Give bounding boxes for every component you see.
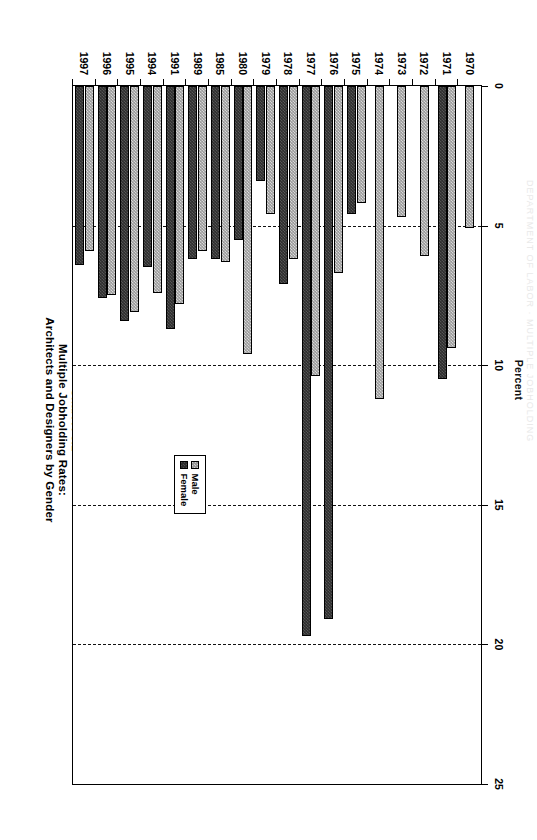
bar-male-1978 <box>289 86 298 259</box>
y-tick-1974 <box>367 79 368 86</box>
y-tick-1991 <box>163 79 164 86</box>
chart-row: 1975 <box>345 86 368 784</box>
chart-row: 1994 <box>141 86 164 784</box>
chart-title-line3: Architects and Designers by Gender <box>43 0 56 840</box>
bar-female-1991 <box>166 86 175 329</box>
bar-female-1989 <box>188 86 197 259</box>
chart-legend[interactable]: Male Female <box>174 455 206 515</box>
y-axis-label-1971: 1971 <box>441 52 453 75</box>
chart-row: 1972 <box>413 86 436 784</box>
x-tick-5 <box>481 226 488 227</box>
y-axis-label-1979: 1979 <box>260 52 272 75</box>
chart-row: 1997 <box>73 86 96 784</box>
x-axis-title: Percent <box>513 0 525 760</box>
bar-male-1997 <box>85 86 94 251</box>
chart-row: 1978 <box>277 86 300 784</box>
chart-row: 1991 <box>164 86 187 784</box>
x-tick-label-0: 0 <box>493 83 505 89</box>
y-tick-1980 <box>231 79 232 86</box>
y-axis-label-1994: 1994 <box>146 52 158 75</box>
chart-row: 1996 <box>96 86 119 784</box>
bar-female-1985 <box>211 86 220 259</box>
y-axis-label-1970: 1970 <box>464 52 476 75</box>
y-axis-label-1991: 1991 <box>169 52 181 75</box>
bar-female-1995 <box>120 86 129 321</box>
chart-row: 1979 <box>254 86 277 784</box>
y-tick-1989 <box>185 79 186 86</box>
y-tick-1985 <box>208 79 209 86</box>
y-tick-1973 <box>389 79 390 86</box>
legend-item-female: Female <box>179 461 190 507</box>
x-tick-label-25: 25 <box>493 778 505 790</box>
chart-row: 1971 <box>436 86 459 784</box>
bar-male-1973 <box>397 86 406 217</box>
legend-swatch-female <box>180 461 188 469</box>
y-tick-1970 <box>457 79 458 86</box>
bar-male-1972 <box>420 86 429 256</box>
y-tick-1976 <box>321 79 322 86</box>
x-tick-label-20: 20 <box>493 639 505 651</box>
legend-label-male: Male <box>190 474 201 495</box>
bar-female-1977 <box>302 86 311 636</box>
chart-row: 1977 <box>300 86 323 784</box>
bar-female-1971 <box>438 86 447 379</box>
page-header-faint: DEPARTMENT OF LABOR · MULTIPLE JOBHOLDIN… <box>525 180 535 640</box>
legend-swatch-male <box>191 461 199 469</box>
x-tick-0 <box>481 86 488 87</box>
y-axis-label-1978: 1978 <box>282 52 294 75</box>
x-tick-label-5: 5 <box>493 223 505 229</box>
y-tick-1979 <box>253 79 254 86</box>
bar-male-1995 <box>130 86 139 312</box>
y-tick-1997 <box>72 79 73 86</box>
bar-female-1975 <box>347 86 356 214</box>
y-axis-label-1974: 1974 <box>373 52 385 75</box>
bar-male-1994 <box>153 86 162 293</box>
bar-female-1979 <box>256 86 265 181</box>
y-tick-1972 <box>412 79 413 86</box>
y-axis-label-1980: 1980 <box>237 52 249 75</box>
bar-male-1977 <box>311 86 320 376</box>
y-tick-1975 <box>344 79 345 86</box>
bar-female-1997 <box>75 86 84 265</box>
y-tick-1971 <box>435 79 436 86</box>
plot-area: 0510152025 19701971197219731974197519761… <box>72 85 482 785</box>
chart-row: 1970 <box>458 86 481 784</box>
bar-male-1996 <box>107 86 116 295</box>
x-tick-25 <box>481 784 488 785</box>
legend-label-female: Female <box>179 474 190 507</box>
x-tick-20 <box>481 644 488 645</box>
y-tick-1996 <box>95 79 96 86</box>
chart-row: 1974 <box>368 86 391 784</box>
x-tick-label-10: 10 <box>493 359 505 371</box>
chart-title-line2: Multiple Jobholding Rates: <box>56 0 69 840</box>
bar-female-1976 <box>324 86 333 619</box>
y-axis-label-1976: 1976 <box>328 52 340 75</box>
y-axis-label-1972: 1972 <box>418 52 430 75</box>
y-tick-1978 <box>276 79 277 86</box>
x-tick-label-15: 15 <box>493 499 505 511</box>
y-tick-1994 <box>140 79 141 86</box>
bar-female-1978 <box>279 86 288 284</box>
bar-male-1989 <box>198 86 207 251</box>
x-tick-10 <box>481 365 488 366</box>
y-tick-1977 <box>299 79 300 86</box>
y-axis-label-1996: 1996 <box>101 52 113 75</box>
y-axis-label-1973: 1973 <box>396 52 408 75</box>
y-axis-label-1997: 1997 <box>78 52 90 75</box>
bar-male-1985 <box>221 86 230 262</box>
legend-item-male: Male <box>190 461 201 507</box>
bar-male-1975 <box>357 86 366 203</box>
bar-male-1970 <box>465 86 474 228</box>
chart-row: 1980 <box>232 86 255 784</box>
bar-female-1996 <box>98 86 107 298</box>
bar-male-1991 <box>175 86 184 304</box>
y-tick-1995 <box>117 79 118 86</box>
chart-figure: DEPARTMENT OF LABOR · MULTIPLE JOBHOLDIN… <box>0 0 537 840</box>
y-axis-label-1989: 1989 <box>192 52 204 75</box>
x-tick-15 <box>481 505 488 506</box>
bar-female-1980 <box>234 86 243 240</box>
y-axis-label-1995: 1995 <box>124 52 136 75</box>
y-axis-label-1977: 1977 <box>305 52 317 75</box>
chart-row: 1976 <box>322 86 345 784</box>
bar-female-1994 <box>143 86 152 267</box>
